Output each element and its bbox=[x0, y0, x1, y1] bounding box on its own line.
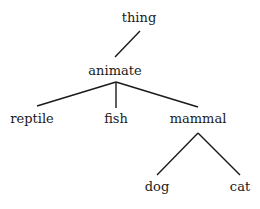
edge-mammal-dog bbox=[157, 133, 198, 175]
node-reptile: reptile bbox=[10, 112, 53, 125]
node-cat: cat bbox=[230, 180, 250, 193]
edge-animate-reptile bbox=[37, 82, 116, 106]
node-fish: fish bbox=[104, 112, 128, 125]
node-mammal: mammal bbox=[170, 112, 227, 125]
edge-mammal-cat bbox=[198, 133, 240, 175]
tree-edges bbox=[0, 0, 260, 209]
edge-animate-mammal bbox=[116, 82, 198, 107]
node-thing: thing bbox=[122, 11, 156, 24]
node-animate: animate bbox=[88, 64, 141, 77]
node-dog: dog bbox=[145, 180, 169, 193]
edge-thing-animate bbox=[115, 31, 140, 57]
